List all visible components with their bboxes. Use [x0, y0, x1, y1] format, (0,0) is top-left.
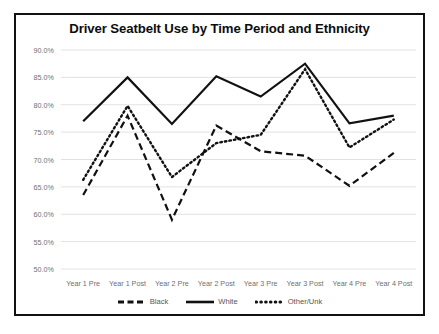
y-axis-tick-label: 65.0%	[20, 182, 54, 191]
series-line-white	[83, 64, 394, 124]
x-axis-tick-label: Year 2 Post	[198, 279, 235, 288]
x-axis-tick-label: Year 3 Pre	[244, 279, 278, 288]
y-axis-tick-label: 50.0%	[20, 265, 54, 274]
x-axis-tick-label: Year 2 Pre	[155, 279, 189, 288]
y-axis-tick-label: 90.0%	[20, 46, 54, 55]
legend-item-other-unk[interactable]: Other/Unk	[255, 297, 323, 306]
x-axis-tick-label: Year 1 Post	[109, 279, 146, 288]
legend-label: White	[218, 297, 237, 306]
chart-legend: BlackWhiteOther/Unk	[16, 297, 423, 306]
y-axis-tick-label: 60.0%	[20, 210, 54, 219]
plot-svg	[16, 15, 427, 318]
legend-label: Black	[150, 297, 169, 306]
plot-area: 90.0%85.0%80.0%75.0%70.0%65.0%60.0%55.0%…	[16, 15, 427, 318]
legend-item-black[interactable]: Black	[117, 297, 169, 306]
y-axis-tick-label: 75.0%	[20, 128, 54, 137]
series-line-black	[83, 116, 394, 220]
y-axis-tick-label: 55.0%	[20, 237, 54, 246]
legend-item-white[interactable]: White	[185, 297, 237, 306]
y-axis-tick-label: 80.0%	[20, 100, 54, 109]
y-axis-tick-label: 85.0%	[20, 73, 54, 82]
legend-swatch-solid	[185, 298, 215, 306]
x-axis-tick-label: Year 3 Post	[287, 279, 324, 288]
gridlines	[61, 50, 416, 269]
x-axis-tick-label: Year 4 Post	[375, 279, 412, 288]
y-axis-tick-label: 70.0%	[20, 155, 54, 164]
series-lines	[83, 64, 394, 220]
chart-container: Driver Seatbelt Use by Time Period and E…	[14, 13, 425, 316]
legend-label: Other/Unk	[288, 297, 323, 306]
legend-swatch-dotted	[255, 298, 285, 306]
x-axis-tick-label: Year 1 Pre	[66, 279, 100, 288]
x-axis-tick-label: Year 4 Pre	[333, 279, 367, 288]
legend-swatch-dashed	[117, 298, 147, 306]
